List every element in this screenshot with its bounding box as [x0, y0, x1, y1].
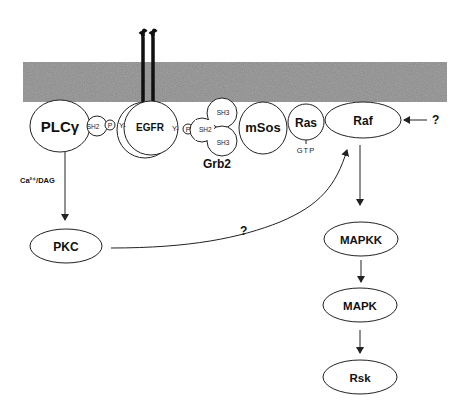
grb2-node: SH2 SH3 SH3 Grb2 — [190, 98, 237, 171]
svg-text:MAPK: MAPK — [343, 300, 378, 312]
svg-text:Ca²⁺/DAG: Ca²⁺/DAG — [20, 176, 55, 185]
egfr-node: Y- EGFR Y- — [117, 101, 179, 158]
svg-text:PKC: PKC — [53, 240, 79, 254]
svg-text:GTP: GTP — [297, 146, 315, 155]
signaling-diagram: PLCγ SH2 P Y- EGFR Y- P SH2 SH3 SH3 Grb2… — [0, 0, 463, 409]
svg-text:SH2: SH2 — [199, 126, 212, 133]
mapkk-node: MAPKK — [324, 222, 398, 256]
svg-text:MAPKK: MAPKK — [340, 234, 383, 246]
svg-text:Y-: Y- — [119, 121, 126, 130]
pkc-node: PKC — [30, 229, 102, 263]
svg-text:SH3: SH3 — [217, 109, 230, 116]
svg-text:mSos: mSos — [245, 120, 280, 135]
svg-text:?: ? — [240, 224, 247, 238]
raf-node: Raf — [325, 102, 401, 138]
svg-text:Raf: Raf — [353, 114, 373, 128]
plc-gamma-node: PLCγ — [30, 100, 90, 152]
ras-node: Ras GTP — [288, 104, 324, 155]
plc-to-pkc-arrow: Ca²⁺/DAG — [20, 152, 65, 220]
cell-membrane — [23, 62, 447, 102]
svg-text:SH2: SH2 — [87, 123, 100, 130]
svg-text:Ras: Ras — [295, 116, 317, 130]
svg-text:SH3: SH3 — [217, 139, 230, 146]
rsk-node: Rsk — [323, 360, 397, 394]
svg-text:EGFR: EGFR — [136, 122, 165, 133]
msos-node: mSos — [239, 102, 287, 154]
plc-gamma-label: PLCγ — [41, 118, 80, 135]
svg-text:?: ? — [432, 113, 439, 127]
phosphate-left: P — [105, 120, 115, 130]
svg-text:P: P — [108, 122, 113, 129]
unknown-input-arrow: ? — [404, 113, 439, 127]
svg-text:Grb2: Grb2 — [203, 157, 231, 171]
svg-text:Rsk: Rsk — [349, 372, 371, 384]
mapk-node: MAPK — [323, 288, 397, 322]
plc-sh2-domain: SH2 — [87, 116, 107, 136]
svg-text:Y-: Y- — [172, 124, 179, 133]
